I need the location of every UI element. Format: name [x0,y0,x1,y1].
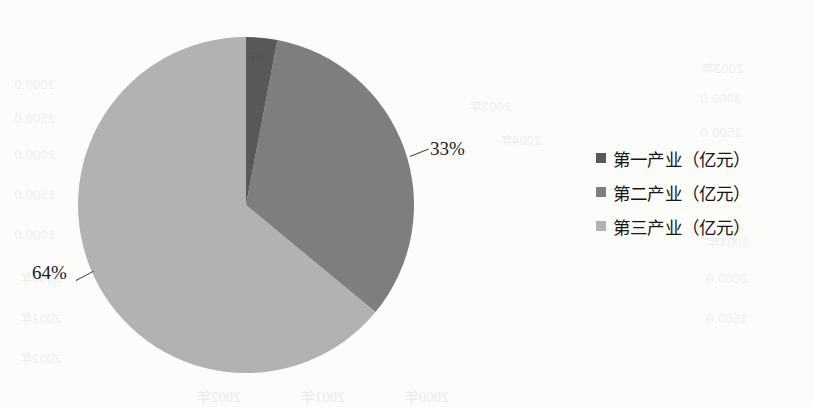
legend-item-third-industry[interactable]: 第三产业（亿元） [596,209,751,243]
bleed-text: 3000.0 [14,78,55,92]
legend-label: 第一产业（亿元） [613,146,751,171]
bleed-text: 2001年 [18,308,61,327]
bleed-text: 2500.0 [700,126,741,140]
bleed-caption: 2000年 [404,386,449,406]
data-label-first-industry: 3% [249,50,265,65]
bleed-caption: 2002年 [196,386,241,406]
legend-swatch-icon [596,221,606,231]
bleed-text: 1500.0 [14,188,55,202]
bleed-caption: 2001年 [300,386,345,406]
bleed-text: 2002年 [18,348,61,367]
legend-label: 第二产业（亿元） [613,180,751,205]
chart-legend: 第一产业（亿元） 第二产业（亿元） 第三产业（亿元） [596,141,751,243]
bleed-text: 3000.0 [700,92,741,106]
bleed-text: 2004年 [498,130,541,149]
bleed-text: 2000.0 [14,148,55,162]
data-label-second-industry: 33% [430,138,465,160]
data-label-third-industry: 64% [32,262,67,284]
legend-swatch-icon [596,187,606,197]
bleed-text: 2003年 [700,58,743,77]
bleed-text: 2000.0 [706,272,747,286]
bleed-text: 1500.0 [706,312,747,326]
legend-swatch-icon [596,153,606,163]
pie-chart-graphic [78,37,414,373]
bleed-text: 2500.0 [14,112,55,126]
legend-item-first-industry[interactable]: 第一产业（亿元） [596,141,751,175]
pie-chart-screenshot: 3000.0 2500.0 2000.0 1500.0 1000.0 2000年… [0,0,814,407]
legend-label: 第三产业（亿元） [613,214,751,239]
bleed-text: 1000.0 [14,228,55,242]
bleed-text: 2003年 [468,96,511,115]
legend-item-second-industry[interactable]: 第二产业（亿元） [596,175,751,209]
